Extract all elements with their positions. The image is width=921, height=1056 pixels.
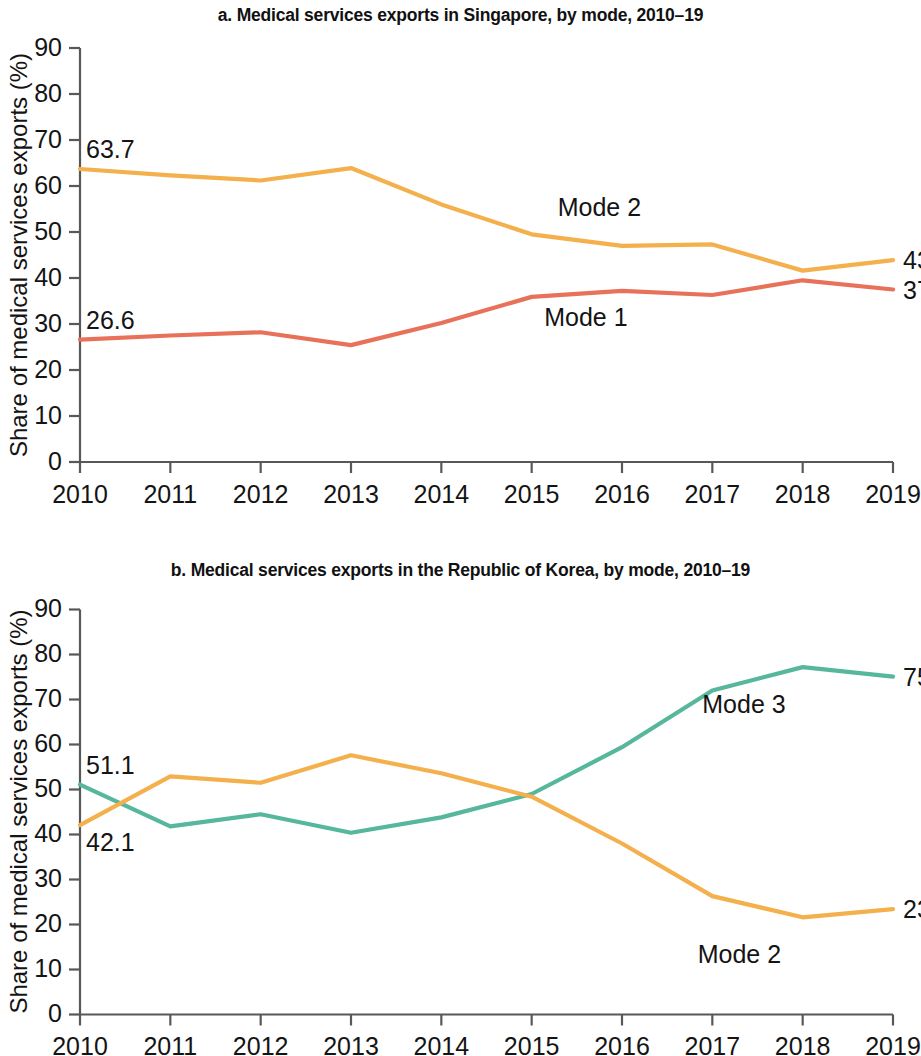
- x-tick-label-2011: 2011: [143, 480, 197, 508]
- y-axis-title: Share of medical services exports (%): [5, 609, 32, 1013]
- x-tick-label-2012: 2012: [233, 1032, 289, 1056]
- y-tick-label-80: 80: [34, 639, 62, 667]
- y-tick-label-70: 70: [34, 684, 62, 712]
- panel-b-plot: 0102030405060708090201020112012201320142…: [0, 528, 921, 1056]
- x-tick-label-2015: 2015: [504, 1032, 560, 1056]
- x-tick-label-2013: 2013: [323, 480, 379, 508]
- y-axis-title: Share of medical services exports (%): [5, 53, 32, 457]
- series-annotation-mode-3: Mode 3: [702, 690, 785, 718]
- series-annotation-mode-2: Mode 2: [558, 193, 641, 221]
- chart-panel-a: a. Medical services exports in Singapore…: [0, 0, 921, 528]
- y-tick-label-70: 70: [34, 125, 62, 153]
- y-tick-label-50: 50: [34, 774, 62, 802]
- y-tick-label-90: 90: [34, 594, 62, 622]
- start-value-label-mode-3: 51.1: [86, 751, 135, 779]
- end-value-label-mode-2: 43.9: [903, 246, 921, 274]
- series-line-mode-2: [80, 168, 893, 271]
- x-tick-label-2017: 2017: [685, 1032, 741, 1056]
- y-tick-label-10: 10: [34, 954, 62, 982]
- x-tick-label-2019: 2019: [865, 480, 921, 508]
- x-tick-label-2017: 2017: [685, 480, 741, 508]
- y-tick-label-50: 50: [34, 217, 62, 245]
- series-line-mode-1: [80, 280, 893, 345]
- y-tick-label-10: 10: [34, 401, 62, 429]
- x-tick-label-2018: 2018: [775, 1032, 831, 1056]
- series-annotation-mode-2: Mode 2: [698, 940, 781, 968]
- y-tick-label-40: 40: [34, 263, 62, 291]
- end-value-label-mode-3: 75.1: [903, 663, 921, 691]
- x-tick-label-2016: 2016: [594, 480, 650, 508]
- x-tick-label-2011: 2011: [143, 1032, 197, 1056]
- x-tick-label-2015: 2015: [504, 480, 560, 508]
- end-value-label-mode-2: 23.4: [903, 895, 921, 923]
- y-tick-label-20: 20: [34, 355, 62, 383]
- x-tick-label-2014: 2014: [414, 480, 470, 508]
- start-value-label-mode-1: 26.6: [86, 306, 135, 334]
- y-tick-label-80: 80: [34, 79, 62, 107]
- panel-a-plot: 0102030405060708090201020112012201320142…: [0, 0, 921, 528]
- y-tick-label-0: 0: [48, 999, 62, 1027]
- y-tick-label-20: 20: [34, 909, 62, 937]
- y-tick-label-30: 30: [34, 864, 62, 892]
- x-tick-label-2010: 2010: [52, 1032, 108, 1056]
- x-tick-label-2018: 2018: [775, 480, 831, 508]
- x-tick-label-2014: 2014: [414, 1032, 470, 1056]
- x-tick-label-2013: 2013: [323, 1032, 379, 1056]
- chart-panel-b: b. Medical services exports in the Repub…: [0, 528, 921, 1053]
- y-tick-label-40: 40: [34, 819, 62, 847]
- y-tick-label-0: 0: [48, 447, 62, 475]
- y-tick-label-90: 90: [34, 33, 62, 61]
- y-tick-label-60: 60: [34, 729, 62, 757]
- series-annotation-mode-1: Mode 1: [544, 303, 627, 331]
- x-tick-label-2016: 2016: [594, 1032, 650, 1056]
- x-tick-label-2012: 2012: [233, 480, 289, 508]
- start-value-label-mode-2: 63.7: [86, 135, 135, 163]
- start-value-label-mode-2: 42.1: [86, 828, 135, 856]
- series-line-mode-2: [80, 755, 893, 917]
- end-value-label-mode-1: 37.5: [903, 276, 921, 304]
- y-tick-label-30: 30: [34, 309, 62, 337]
- x-tick-label-2010: 2010: [52, 480, 108, 508]
- x-tick-label-2019: 2019: [865, 1032, 921, 1056]
- y-tick-label-60: 60: [34, 171, 62, 199]
